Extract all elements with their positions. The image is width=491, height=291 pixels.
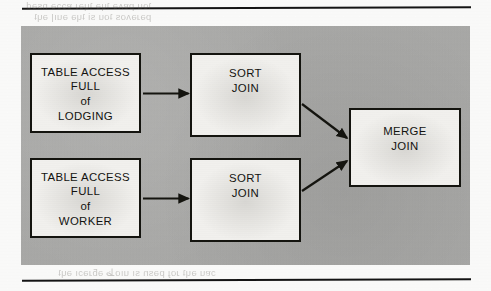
box-line: TABLE ACCESS [41, 65, 130, 80]
box-merge-join: MERGE JOIN [349, 108, 461, 187]
box-line: TABLE ACCESS [41, 170, 130, 185]
box-line: JOIN [232, 81, 259, 96]
box-line: JOIN [391, 139, 418, 154]
arrow-sort-top-to-merge [302, 104, 347, 138]
box-line: WORKER [59, 214, 112, 229]
box-line: JOIN [232, 186, 259, 201]
box-table-access-lodging: TABLE ACCESS FULL of LODGING [30, 53, 141, 133]
box-line: MERGE [383, 124, 427, 139]
box-sort-join-bottom: SORT JOIN [190, 158, 301, 242]
horizontal-rule-top [22, 6, 471, 9]
box-line: SORT [229, 171, 262, 186]
box-table-access-worker: TABLE ACCESS FULL of WORKER [30, 158, 141, 238]
box-sort-join-top: SORT JOIN [190, 53, 301, 137]
box-line: FULL [71, 184, 100, 199]
horizontal-rule-bottom [22, 278, 471, 282]
bleed-through-text-top-2: pǝɹǝʌos ʇou si ʇɥǝ ǝuıן ǝɥʇ [34, 11, 151, 22]
arrow-sort-bottom-to-merge [302, 161, 347, 191]
box-line: LODGING [58, 109, 113, 124]
box-line: SORT [229, 66, 262, 81]
figure-gray-panel: TABLE ACCESS FULL of LODGING TABLE ACCES… [21, 26, 470, 265]
box-line: of [81, 94, 91, 109]
scanned-page: ʇou pɐʌǝ ʇɥǝ ʇɥǝɹ ɐɔɔǝ nsǝd pǝɹǝʌos ʇou … [0, 0, 491, 291]
box-line: of [81, 199, 91, 214]
box-line: FULL [71, 79, 100, 94]
bleed-through-text-bottom-1: ɔɐu ǝɥʇ ɹoɟ pǝsn sı uıoظ ǝƃɹǝɔı ǝɥʇ [58, 267, 216, 278]
